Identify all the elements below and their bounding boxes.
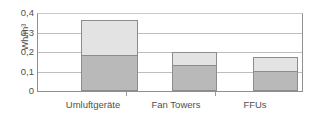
bar-umluftgeraete[interactable] bbox=[81, 20, 138, 91]
y-tick-label-0.1: 0,1 bbox=[14, 67, 34, 77]
bar-segment-lower bbox=[172, 65, 217, 91]
y-tick-label-0.3: 0,3 bbox=[14, 28, 34, 38]
x-axis-tick-1 bbox=[126, 92, 127, 96]
plot-area bbox=[37, 13, 303, 92]
bar-segment-upper bbox=[253, 57, 298, 72]
bar-chart: Wh/m³ 0,4 0,3 0,2 0,1 0 Umluf bbox=[0, 0, 315, 123]
bar-segment-upper bbox=[81, 20, 138, 56]
bar-fan-towers[interactable] bbox=[172, 52, 217, 91]
y-tick-label-0.4: 0,4 bbox=[14, 8, 34, 18]
bars-layer bbox=[38, 14, 302, 91]
x-category-label-ffus: FFUs bbox=[207, 99, 303, 111]
bar-segment-lower bbox=[253, 71, 298, 91]
bar-segment-lower bbox=[81, 55, 138, 91]
x-axis-tick-2 bbox=[215, 92, 216, 96]
y-tick-label-0.2: 0,2 bbox=[14, 47, 34, 57]
bar-ffus[interactable] bbox=[253, 57, 298, 91]
bar-segment-upper bbox=[172, 52, 217, 66]
y-tick-label-0: 0 bbox=[14, 86, 34, 96]
